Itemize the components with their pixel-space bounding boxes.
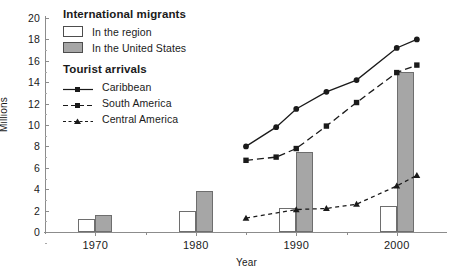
y-minor-tick	[45, 136, 47, 137]
x-minor-tick	[246, 232, 247, 235]
legend-label-in-the-region: In the region	[92, 26, 152, 38]
data-point-marker	[413, 172, 420, 178]
legend-migrants-title: International migrants	[63, 8, 186, 20]
y-tick-label: 14	[14, 77, 40, 88]
y-tick-label: 20	[14, 13, 40, 24]
y-tick-mark	[45, 211, 49, 212]
x-tick-mark	[397, 232, 398, 236]
y-tick-mark	[45, 232, 49, 233]
legend-item-in-the-region: In the region	[63, 24, 186, 39]
data-point-marker	[293, 106, 299, 112]
y-tick-label: 16	[14, 56, 40, 67]
legend-label-in-the-united-states: In the United States	[92, 42, 186, 54]
y-minor-tick	[45, 243, 47, 244]
data-point-marker	[273, 124, 279, 130]
data-point-marker	[243, 158, 248, 163]
data-point-marker	[324, 89, 330, 95]
legend-label-south-america: South America	[102, 97, 172, 109]
y-axis-title: Millions	[0, 97, 9, 132]
legend-label-caribbean: Caribbean	[102, 81, 151, 93]
data-point-marker	[294, 146, 299, 151]
bar-in-the-region-1970	[78, 219, 95, 232]
grey-square-swatch-icon	[63, 42, 83, 53]
y-tick-label: 12	[14, 99, 40, 110]
chart-container: Millions Year 02468101214161820 19701980…	[0, 0, 463, 277]
y-minor-tick	[45, 200, 47, 201]
data-point-marker	[323, 205, 330, 211]
y-minor-tick	[45, 93, 47, 94]
y-tick-label: 10	[14, 120, 40, 131]
bar-in-the-region-1990	[279, 208, 296, 232]
data-point-marker	[354, 77, 360, 83]
line-south-america	[246, 65, 417, 160]
y-tick-label: 4	[14, 184, 40, 195]
y-tick-label: 0	[14, 227, 40, 238]
bar-in-the-region-1980	[179, 211, 196, 232]
x-minor-tick	[146, 232, 147, 235]
legend-item-south-america: South America	[63, 95, 178, 110]
data-point-marker	[243, 144, 249, 150]
y-minor-tick	[45, 157, 47, 158]
y-tick-label: 8	[14, 141, 40, 152]
legend-item-central-america: Central America	[63, 111, 178, 126]
y-tick-mark	[45, 189, 49, 190]
bar-in-the-united-states-1980	[196, 191, 213, 232]
x-tick-label: 1970	[72, 240, 118, 251]
y-tick-label: 18	[14, 34, 40, 45]
bar-in-the-united-states-2000	[397, 72, 414, 233]
data-point-marker	[273, 154, 278, 159]
y-tick-mark	[45, 104, 49, 105]
y-tick-label: 2	[14, 206, 40, 217]
legend-item-in-the-united-states: In the United States	[63, 40, 186, 55]
x-tick-label: 1990	[273, 240, 319, 251]
y-minor-tick	[45, 179, 47, 180]
data-point-marker	[243, 215, 250, 221]
x-axis-title: Year	[0, 257, 463, 268]
y-tick-mark	[45, 18, 49, 19]
bar-in-the-region-2000	[380, 206, 397, 232]
solid-line-circle-marker-icon	[63, 81, 93, 92]
data-point-marker	[324, 123, 329, 128]
x-minor-tick	[347, 232, 348, 235]
x-tick-mark	[95, 232, 96, 236]
bar-in-the-united-states-1970	[95, 215, 112, 232]
bar-in-the-united-states-1990	[296, 152, 313, 232]
legend-tourist-title: Tourist arrivals	[63, 63, 178, 75]
line-caribbean	[246, 39, 417, 146]
y-tick-mark	[45, 146, 49, 147]
legend-international-migrants: International migrants In the region In …	[63, 8, 186, 56]
dashed-line-square-marker-icon	[63, 97, 93, 108]
y-minor-tick	[45, 50, 47, 51]
x-tick-label: 1980	[173, 240, 219, 251]
dashed-line-triangle-marker-icon	[63, 113, 93, 124]
data-point-marker	[353, 201, 360, 207]
y-tick-mark	[45, 61, 49, 62]
data-point-marker	[414, 37, 420, 43]
y-tick-mark	[45, 39, 49, 40]
y-minor-tick	[45, 221, 47, 222]
data-point-marker	[394, 45, 400, 51]
legend-item-caribbean: Caribbean	[63, 79, 178, 94]
x-tick-label: 2000	[374, 240, 420, 251]
x-tick-mark	[296, 232, 297, 236]
data-point-marker	[354, 100, 359, 105]
data-point-marker	[414, 62, 419, 67]
legend-tourist-arrivals: Tourist arrivals Caribbean South America…	[63, 63, 178, 127]
y-tick-label: 6	[14, 163, 40, 174]
y-minor-tick	[45, 114, 47, 115]
y-tick-mark	[45, 82, 49, 83]
y-minor-tick	[45, 72, 47, 73]
x-tick-mark	[196, 232, 197, 236]
legend-label-central-america: Central America	[102, 113, 178, 125]
y-tick-mark	[45, 125, 49, 126]
white-square-swatch-icon	[63, 26, 83, 37]
y-tick-mark	[45, 168, 49, 169]
